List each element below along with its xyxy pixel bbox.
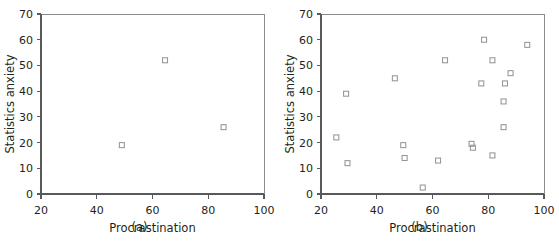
- y-tick-label: 20: [299, 137, 313, 150]
- data-point-marker: [482, 37, 487, 42]
- y-tick-label: 0: [306, 188, 313, 201]
- x-tick-label: 80: [201, 204, 215, 217]
- y-axis-title: Statistics anxiety: [3, 54, 17, 153]
- x-tick-label: 40: [370, 204, 384, 217]
- data-point-marker: [508, 71, 513, 76]
- panel-caption-a: (a): [0, 222, 279, 234]
- data-point-marker: [334, 135, 339, 140]
- y-tick-label: 60: [299, 34, 313, 47]
- data-point-marker: [392, 76, 397, 81]
- data-point-marker: [479, 81, 484, 86]
- figure-scatterplot-pair: 01020304050607020406080100Procrastinatio…: [0, 0, 559, 248]
- data-point-marker: [345, 161, 350, 166]
- y-tick-label: 50: [19, 59, 33, 72]
- x-tick-label: 100: [534, 204, 555, 217]
- chart-panel-a: 01020304050607020406080100Procrastinatio…: [0, 0, 279, 248]
- x-tick-label: 20: [314, 204, 328, 217]
- data-point-marker: [402, 156, 407, 161]
- x-tick-label: 40: [90, 204, 104, 217]
- x-tick-label: 100: [254, 204, 275, 217]
- scatter-plot-b: 01020304050607020406080100Procrastinatio…: [280, 0, 559, 248]
- y-tick-label: 30: [299, 111, 313, 124]
- y-tick-label: 40: [19, 85, 33, 98]
- y-tick-label: 40: [299, 85, 313, 98]
- data-point-marker: [221, 125, 226, 130]
- panel-caption-b: (b): [280, 222, 559, 234]
- x-tick-label: 60: [146, 204, 160, 217]
- data-point-marker: [502, 81, 507, 86]
- y-axis-title: Statistics anxiety: [283, 54, 297, 153]
- y-tick-label: 50: [299, 59, 313, 72]
- data-point-marker: [436, 158, 441, 163]
- data-point-marker: [420, 185, 425, 190]
- scatter-plot-a: 01020304050607020406080100Procrastinatio…: [0, 0, 279, 248]
- x-tick-label: 60: [426, 204, 440, 217]
- y-tick-label: 70: [19, 8, 33, 21]
- y-tick-label: 10: [19, 162, 33, 175]
- chart-panel-b: 01020304050607020406080100Procrastinatio…: [280, 0, 559, 248]
- data-point-marker: [525, 42, 530, 47]
- data-point-marker: [490, 153, 495, 158]
- y-tick-label: 10: [299, 162, 313, 175]
- x-tick-label: 80: [481, 204, 495, 217]
- y-tick-label: 0: [26, 188, 33, 201]
- y-tick-label: 60: [19, 34, 33, 47]
- data-point-marker: [119, 143, 124, 148]
- data-point-marker: [501, 99, 506, 104]
- y-tick-label: 30: [19, 111, 33, 124]
- data-point-marker: [443, 58, 448, 63]
- y-tick-label: 20: [19, 137, 33, 150]
- data-point-marker: [344, 91, 349, 96]
- data-point-marker: [501, 125, 506, 130]
- y-tick-label: 70: [299, 8, 313, 21]
- data-point-marker: [490, 58, 495, 63]
- x-tick-label: 20: [34, 204, 48, 217]
- data-point-marker: [163, 58, 168, 63]
- data-point-marker: [401, 143, 406, 148]
